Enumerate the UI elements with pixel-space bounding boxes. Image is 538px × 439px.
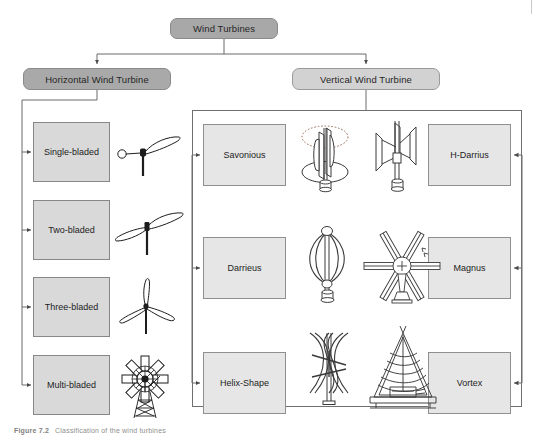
figure-caption: Figure 7.2Classification of the wind tur… — [14, 427, 166, 434]
leaf-darrieus: Darrieus — [203, 237, 286, 299]
vortex-turbine-icon — [362, 325, 444, 411]
leaf-multi-bladed: Multi-bladed — [33, 355, 110, 415]
figure-wind-turbine-classification: Wind Turbines Horizontal Wind Turbine Ve… — [0, 0, 538, 439]
two-bladed-turbine-icon — [110, 203, 188, 261]
leaf-two-bladed: Two-bladed — [33, 200, 110, 260]
leaf-single-bladed: Single-bladed — [33, 122, 110, 182]
leaf-three-bladed: Three-bladed — [33, 277, 110, 337]
h-darrius-turbine-icon — [366, 113, 428, 197]
single-bladed-turbine-icon — [113, 124, 185, 182]
node-horizontal-wind-turbine: Horizontal Wind Turbine — [23, 68, 171, 90]
node-vertical-label: Vertical Wind Turbine — [320, 74, 412, 85]
leaf-multi-bladed-label: Multi-bladed — [47, 380, 96, 390]
magnus-turbine-icon — [364, 222, 440, 308]
figure-caption-number: Figure 7.2 — [14, 427, 49, 434]
leaf-magnus: Magnus — [428, 237, 511, 299]
darrieus-turbine-icon — [296, 222, 358, 306]
leaf-savonious: Savonious — [203, 124, 286, 186]
leaf-two-bladed-label: Two-bladed — [48, 225, 95, 235]
node-wind-turbines: Wind Turbines — [170, 18, 278, 39]
leaf-h-darrius: H-Darrius — [428, 124, 511, 186]
helix-shape-turbine-icon — [294, 325, 364, 411]
leaf-helix-shape: Helix-Shape — [203, 352, 286, 414]
node-horizontal-label: Horizontal Wind Turbine — [45, 74, 149, 85]
node-vertical-wind-turbine: Vertical Wind Turbine — [292, 68, 440, 90]
leaf-three-bladed-label: Three-bladed — [45, 302, 99, 312]
leaf-savonious-label: Savonious — [223, 150, 265, 160]
savonious-turbine-icon — [292, 116, 358, 196]
leaf-magnus-label: Magnus — [453, 263, 485, 273]
leaf-vortex-label: Vortex — [457, 378, 483, 388]
leaf-h-darrius-label: H-Darrius — [450, 150, 489, 160]
leaf-single-bladed-label: Single-bladed — [44, 147, 99, 157]
leaf-darrieus-label: Darrieus — [227, 263, 261, 273]
page-edge-mark — [531, 0, 532, 14]
node-wind-turbines-label: Wind Turbines — [193, 23, 255, 34]
multi-bladed-turbine-icon — [112, 352, 184, 420]
three-bladed-turbine-icon — [115, 278, 185, 338]
leaf-helix-shape-label: Helix-Shape — [220, 378, 269, 388]
figure-caption-text: Classification of the wind turbines — [55, 427, 166, 434]
